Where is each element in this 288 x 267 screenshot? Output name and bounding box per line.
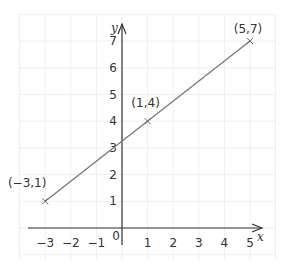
- y-tick-label: 6: [109, 61, 117, 75]
- x-tick-label: 1: [144, 236, 152, 250]
- x-axis-label: x: [257, 230, 264, 244]
- y-tick-label: 1: [109, 194, 117, 208]
- origin-label: 0: [112, 229, 120, 243]
- line-chart: xy −3−2−11234512345670 (−3,1)(1,4)(5,7): [0, 0, 288, 267]
- y-tick-label: 5: [109, 88, 117, 102]
- point-label: (−3,1): [8, 176, 47, 190]
- x-tick-label: −1: [88, 236, 106, 250]
- point-label: (1,4): [131, 96, 159, 110]
- x-tick-label: −3: [36, 236, 54, 250]
- x-tick-label: 3: [195, 236, 203, 250]
- y-tick-label: 2: [109, 168, 117, 182]
- y-axis-label: y: [110, 21, 118, 35]
- x-tick-label: 5: [246, 236, 254, 250]
- x-tick-label: −2: [62, 236, 80, 250]
- x-tick-label: 2: [169, 236, 177, 250]
- point-label: (5,7): [234, 22, 262, 36]
- y-tick-label: 4: [109, 114, 117, 128]
- axes: xy: [28, 21, 264, 245]
- y-tick-label: 7: [109, 34, 117, 48]
- tick-labels: −3−2−11234512345670: [36, 34, 253, 250]
- x-tick-label: 4: [221, 236, 229, 250]
